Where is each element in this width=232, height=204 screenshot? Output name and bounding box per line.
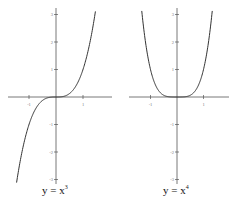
y-tick-label: -2 [170, 150, 174, 155]
caption-quartic-base: y = x [163, 184, 186, 196]
y-tick-label: 1 [172, 67, 174, 72]
caption-cubic: y = x3 [42, 184, 68, 196]
y-tick-label: 2 [51, 40, 53, 45]
x-tick-label: 1 [82, 102, 84, 107]
y-tick-label: 3 [51, 12, 54, 17]
y-tick-label: 2 [172, 40, 174, 45]
x-tick-label: -1 [149, 102, 153, 107]
chart-quartic: -11-3-2-1123 [129, 8, 229, 184]
x-tick-label: 1 [202, 102, 204, 107]
y-tick-label: 3 [172, 12, 175, 17]
y-tick-label: -3 [49, 177, 53, 182]
x-tick-label: -1 [27, 102, 31, 107]
y-tick-label: -3 [170, 177, 174, 182]
y-tick-label: -1 [49, 122, 53, 127]
caption-quartic-exponent: 4 [186, 184, 189, 190]
y-tick-label: -1 [170, 122, 174, 127]
y-tick-label: -2 [49, 150, 53, 155]
caption-cubic-base: y = x [42, 184, 65, 196]
caption-cubic-exponent: 3 [65, 184, 68, 190]
y-tick-label: 1 [51, 67, 53, 72]
charts-canvas: -11-3-2-1123 -11-3-2-1123 [0, 0, 232, 204]
chart-cubic: -11-3-2-1123 [8, 8, 112, 184]
caption-quartic: y = x4 [163, 184, 189, 196]
